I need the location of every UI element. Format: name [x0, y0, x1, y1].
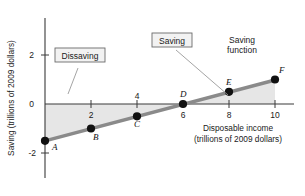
point-label-c: C	[134, 119, 141, 129]
x-tick-label-2: 2	[89, 110, 94, 120]
x-axis-title-units: (trillions of 2009 dollars)	[194, 134, 282, 144]
x-tick-label-10: 10	[270, 110, 280, 120]
saving-callout-label: Saving	[159, 36, 185, 46]
point-label-f: F	[278, 65, 285, 75]
x-tick-label-6: 6	[181, 110, 186, 120]
x-axis-title: Disposable income	[203, 123, 273, 133]
y-axis-title: Saving (trillions of 2009 dollars)	[6, 40, 16, 156]
y-tick-label-0: 0	[29, 99, 34, 109]
point-label-d: D	[179, 89, 187, 99]
point-label-e: E	[225, 77, 232, 87]
dissaving-callout-label: Dissaving	[62, 51, 99, 61]
x-tick-label-4: 4	[135, 91, 140, 101]
point-label-a: A	[51, 142, 58, 152]
data-point-e	[225, 88, 233, 96]
data-point-a	[41, 137, 49, 145]
y-tick-label-2: 2	[29, 50, 34, 60]
data-point-d	[179, 100, 187, 108]
y-tick-label-minus-2: -2	[28, 148, 36, 158]
data-point-f	[271, 75, 279, 83]
dissaving-leader-line	[68, 68, 78, 94]
x-tick-label-8: 8	[227, 110, 232, 120]
point-label-b: B	[93, 132, 99, 142]
saving-function-label-line1: Saving	[229, 35, 255, 45]
chart-canvas: 2 0 -2 2 4 6 8 10 A B C D	[0, 0, 305, 196]
saving-function-label-line2: function	[227, 45, 257, 55]
saving-function-chart: 2 0 -2 2 4 6 8 10 A B C D	[0, 0, 305, 196]
